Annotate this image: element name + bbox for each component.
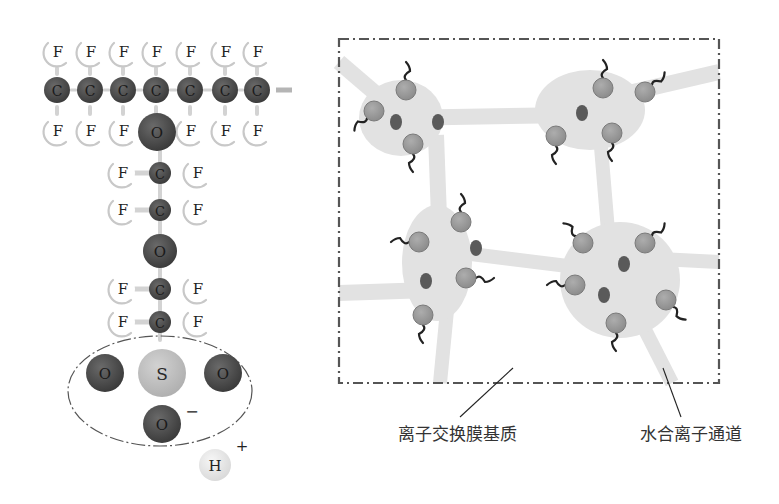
fluorine-label: F (253, 43, 263, 61)
sulfonate-ion (364, 101, 384, 121)
sulfonate-tail (409, 154, 414, 172)
fluorine-atom: F (109, 276, 135, 303)
fluorine-label: F (253, 122, 263, 140)
fluorine-atom: F (244, 118, 270, 145)
fluorine-label: F (119, 122, 129, 140)
sulfonate-tail (552, 146, 557, 164)
sulfonate-ion (396, 80, 416, 100)
sulfonate-tail (405, 62, 410, 80)
sulfonate-ion (546, 126, 566, 146)
carbon-atom: C (77, 77, 103, 103)
fluorine-label: F (86, 122, 96, 140)
fluorine-atom: F (177, 118, 203, 145)
fluorine-atom: F (109, 197, 135, 224)
carbon-atom-label: C (220, 83, 231, 99)
sulfonate-ion (573, 233, 593, 253)
fluorine-label: F (186, 122, 196, 140)
carbon-atom-label: C (52, 83, 63, 99)
carbon-atom-label: C (155, 167, 165, 182)
sulfonate-ion (456, 268, 476, 288)
carbon-atom: C (244, 77, 270, 103)
sulfonate-tail (460, 194, 465, 212)
negative-charge-sign: − (185, 402, 198, 421)
nafion-structure-diagram: FFFFFFFCCCCCCCFFFFFFFFCFFCFFCFFCOOSOOO−H… (0, 0, 779, 504)
carbon-atom: C (44, 77, 70, 103)
sulfonate-tail (563, 223, 576, 236)
fluorine-label: F (221, 122, 231, 140)
fluorine-atom: F (177, 39, 203, 66)
fluorine-label: F (118, 280, 128, 298)
channel-label-text: 水合离子通道 (640, 424, 742, 444)
fluorine-atom: F (212, 118, 238, 145)
fluorine-atom: F (110, 118, 136, 145)
proton: H+ (199, 437, 248, 481)
fluorine-label: F (193, 313, 203, 331)
sulfonate-tail (476, 277, 494, 282)
sulfonate-oxygen-atom-label: O (99, 365, 111, 383)
sulfonate-ion (403, 134, 423, 154)
sulfonate-oxygen-atom: O (204, 354, 242, 392)
matrix-label-text: 离子交换膜基质 (398, 424, 517, 444)
fluorine-atom: F (109, 160, 135, 187)
hydronium-ion (576, 105, 588, 121)
sulfonate-ion (451, 212, 471, 232)
carbon-atom-label: C (118, 83, 129, 99)
matrix-label-leader-line (460, 368, 513, 417)
carbon-atom-label: C (252, 83, 263, 99)
hydronium-ion (390, 114, 402, 130)
carbon-atom-label: C (185, 83, 196, 99)
carbon-atom-label: C (151, 83, 162, 99)
carbon-atom: C (149, 199, 171, 221)
sulfonate-tail (673, 307, 686, 320)
ether-oxygen-atom: O (138, 113, 176, 151)
sulfonate-ion (409, 232, 429, 252)
ether-oxygen-atom: O (143, 234, 177, 268)
fluorine-atom: F (184, 197, 210, 224)
hydronium-ion (598, 287, 610, 303)
fluorine-label: F (193, 280, 203, 298)
fluorine-atom: F (212, 39, 238, 66)
ion-exchange-membrane-diagram (339, 39, 719, 383)
ion-cluster (535, 60, 665, 164)
hydrogen-label: H (208, 457, 221, 475)
fluorine-atom: F (109, 309, 135, 336)
hydronium-ion (432, 114, 444, 130)
sulfonate-ion (606, 313, 626, 333)
fluorine-label: F (193, 164, 203, 182)
fluorine-label: F (118, 164, 128, 182)
carbon-atom: C (212, 77, 238, 103)
sulfonate-ion (635, 233, 655, 253)
hydronium-ion (618, 256, 630, 272)
carbon-atom-label: C (85, 83, 96, 99)
sulfonate-ion (602, 123, 622, 143)
carbon-atom: C (177, 77, 203, 103)
fluorine-atom: F (44, 39, 70, 66)
fluorine-atom: F (77, 118, 103, 145)
hydronium-ion (420, 273, 432, 289)
sulfonate-tail (419, 325, 424, 343)
sulfur-label: S (156, 364, 168, 384)
sulfonate-ion (656, 290, 676, 310)
fluorine-atom: F (184, 309, 210, 336)
channel-label: 水合离子通道 (640, 368, 742, 444)
carbon-atom: C (143, 77, 169, 103)
fluorine-label: F (118, 201, 128, 219)
fluorine-label: F (186, 43, 196, 61)
sulfonate-ion (413, 305, 433, 325)
sulfonate-oxygen-atom: O (86, 354, 124, 392)
fluorine-label: F (53, 122, 63, 140)
matrix-label: 离子交换膜基质 (398, 368, 517, 444)
ion-cluster (547, 222, 686, 351)
fluorine-label: F (86, 43, 96, 61)
carbon-atom: C (149, 311, 171, 333)
sulfonate-oxygen-atom-label: O (217, 365, 229, 383)
fluorine-atom: F (77, 39, 103, 66)
sulfonate-ion (565, 275, 585, 295)
fluorine-label: F (119, 43, 129, 61)
fluorine-atom: F (44, 118, 70, 145)
fluorine-atom: F (110, 39, 136, 66)
fluorine-label: F (152, 43, 162, 61)
carbon-atom: C (110, 77, 136, 103)
sulfonate-ion (593, 78, 613, 98)
carbon-atom-label: C (155, 283, 165, 298)
